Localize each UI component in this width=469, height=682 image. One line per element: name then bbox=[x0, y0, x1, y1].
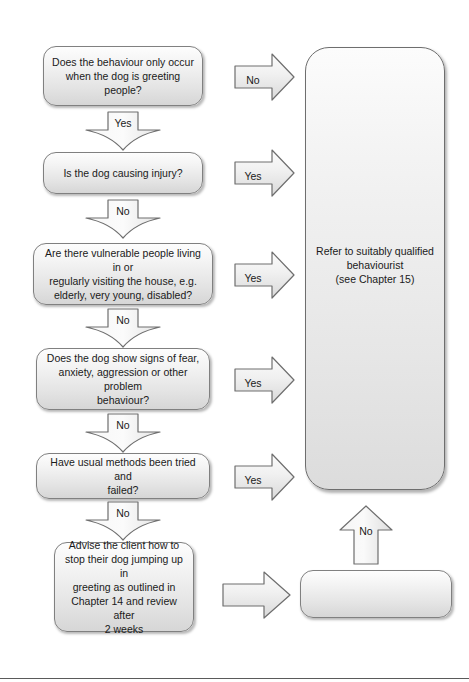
arrow-right-from-advise-to-resolved bbox=[222, 570, 292, 620]
flowchart-page: Does the behaviour only occur when the d… bbox=[0, 0, 469, 682]
decision-node-usual-methods-label: Have usual methods been tried and failed… bbox=[44, 455, 202, 497]
page-bottom-rule bbox=[0, 678, 469, 679]
arrow-down-yes-to-injury: Yes bbox=[84, 110, 162, 152]
arrow-down-no-to-usual-methods: No bbox=[84, 412, 162, 454]
decision-node-vulnerable-people[interactable]: Are there vulnerable people living in or… bbox=[33, 243, 213, 305]
terminal-node-refer-behaviourist-label: Refer to suitably qualified behaviourist… bbox=[306, 244, 444, 286]
decision-node-greeting-only[interactable]: Does the behaviour only occur when the d… bbox=[43, 46, 203, 106]
decision-node-problem-behaviour-label: Does the dog show signs of fear, anxiety… bbox=[44, 351, 202, 407]
arrow-right-yes-from-vulnerable: Yes bbox=[234, 250, 296, 300]
decision-node-causing-injury[interactable]: Is the dog causing injury? bbox=[43, 152, 203, 194]
arrow-right-yes-from-usual-methods: Yes bbox=[234, 452, 296, 502]
arrow-down-no-to-problem-behaviour: No bbox=[84, 307, 162, 349]
arrow-down-no-to-advise: No bbox=[84, 500, 162, 542]
decision-node-behaviour-resolved[interactable] bbox=[300, 570, 452, 618]
arrow-right-yes-from-injury: Yes bbox=[234, 148, 296, 198]
arrow-right-no-from-greeting: No bbox=[234, 52, 296, 102]
process-node-advise-client[interactable]: Advise the client how to stop their dog … bbox=[54, 542, 194, 632]
decision-node-usual-methods[interactable]: Have usual methods been tried and failed… bbox=[36, 453, 210, 499]
process-node-advise-client-label: Advise the client how to stop their dog … bbox=[62, 538, 186, 636]
decision-node-vulnerable-people-label: Are there vulnerable people living in or… bbox=[41, 246, 205, 302]
decision-node-greeting-only-label: Does the behaviour only occur when the d… bbox=[51, 55, 195, 97]
arrow-up-no-to-refer: No bbox=[338, 504, 394, 566]
decision-node-problem-behaviour[interactable]: Does the dog show signs of fear, anxiety… bbox=[36, 348, 210, 410]
terminal-node-refer-behaviourist[interactable]: Refer to suitably qualified behaviourist… bbox=[305, 47, 445, 490]
arrow-right-yes-from-problem-behaviour: Yes bbox=[234, 355, 296, 405]
decision-node-causing-injury-label: Is the dog causing injury? bbox=[51, 166, 195, 180]
arrow-down-no-to-vulnerable: No bbox=[84, 198, 162, 240]
